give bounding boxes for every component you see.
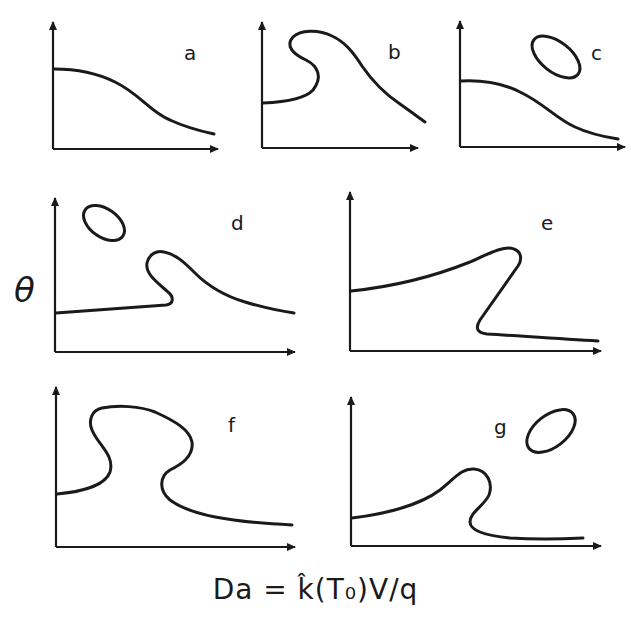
panel-label-f: f (228, 413, 236, 437)
isola (525, 28, 588, 86)
panel-label-d: d (231, 211, 244, 235)
panel-label-c: c (591, 41, 602, 65)
steady-state-curve (351, 248, 598, 341)
bifurcation-diagram-figure: a b c d e f (0, 0, 631, 623)
isola (519, 401, 583, 461)
steady-state-curve (54, 69, 214, 134)
steady-state-curve (461, 81, 618, 139)
panel-b: b (262, 22, 425, 148)
panel-e: e (350, 192, 601, 351)
x-axis-formula: Da = k̂(T₀)V/q (0, 573, 631, 606)
steady-state-curve (56, 251, 294, 313)
panel-label-b: b (388, 40, 401, 64)
panel-f: f (56, 387, 295, 547)
panel-g: g (351, 397, 601, 546)
panel-label-e: e (541, 211, 553, 235)
steady-state-curve (352, 469, 583, 539)
panel-label-g: g (494, 415, 507, 439)
y-axis-label-theta: θ (14, 270, 35, 310)
isola (77, 198, 131, 247)
panel-a: a (53, 22, 218, 149)
panel-d: d (55, 198, 295, 352)
steady-state-curve (57, 406, 292, 525)
panel-label-a: a (184, 41, 196, 65)
panel-c: c (460, 21, 625, 147)
